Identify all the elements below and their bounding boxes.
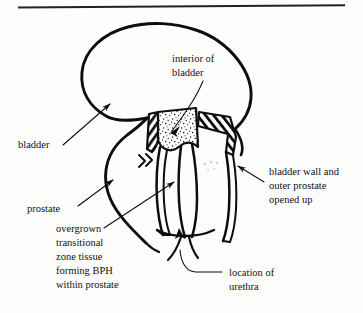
label-interior-of-bladder: interior of bladder	[172, 53, 215, 78]
label-interior-of-bladder-line-1: interior of	[172, 53, 215, 64]
leader-location-of-urethra	[180, 250, 222, 272]
leader-bladder-wall-opened	[238, 166, 264, 182]
leader-bladder	[63, 104, 110, 145]
top-rule	[18, 5, 345, 7]
label-overgrown-tissue-line-5: within prostate	[56, 279, 119, 290]
label-interior-of-bladder-line-2: bladder	[172, 67, 204, 78]
inner-surface-texture	[204, 161, 217, 170]
prostate-lower-tail	[146, 243, 159, 252]
direction-chevron-marks	[139, 154, 152, 167]
label-overgrown-tissue-line-3: zone tissue	[56, 251, 103, 262]
label-bladder-wall-opened: bladder wall and outer prostate opened u…	[269, 166, 340, 205]
urethra-strand-right	[189, 237, 198, 258]
bph-lobe-center-right	[192, 144, 197, 237]
label-location-of-urethra: location of urethra	[229, 267, 275, 292]
label-location-of-urethra-line-2: urethra	[229, 281, 259, 292]
bph-lobe-left-inner	[164, 150, 170, 235]
label-overgrown-tissue-line-4: forming BPH	[56, 265, 113, 276]
cut-edge-right-flap	[198, 112, 236, 155]
cut-edge-left	[147, 112, 158, 152]
label-overgrown-tissue-line-1: overgrown	[56, 223, 102, 234]
label-prostate: prostate	[27, 203, 61, 214]
prostate-inner-wall-right-edge	[230, 155, 236, 242]
label-location-of-urethra-line-1: location of	[229, 267, 275, 278]
label-bladder-wall-opened-line-3: opened up	[269, 194, 312, 205]
bph-lobe-center-left	[179, 146, 185, 237]
diagram-canvas: bladder interior of bladder bladder wall…	[0, 0, 363, 313]
label-overgrown-tissue-line-2: transitional	[56, 237, 103, 248]
label-bladder: bladder	[18, 139, 50, 150]
prostate-inner-wall-right	[223, 152, 229, 241]
urethra-strand-left	[168, 237, 181, 260]
prostate-flap-bottom-right	[223, 241, 230, 242]
label-overgrown-tissue: overgrown transitional zone tissue formi…	[56, 223, 119, 290]
label-bladder-wall-opened-line-2: outer prostate	[269, 180, 327, 191]
anatomical-figure: bladder interior of bladder bladder wall…	[0, 0, 363, 313]
label-bladder-wall-opened-line-1: bladder wall and	[269, 166, 340, 177]
